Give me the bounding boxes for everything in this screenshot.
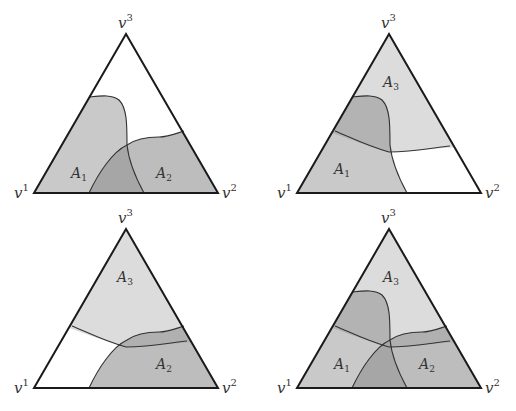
vertex-v3: v3 — [381, 12, 396, 32]
vertex-v3: v3 — [381, 207, 396, 227]
panel-bottom-left: A3 A2 v1 v2 v3 — [14, 207, 237, 397]
vertex-v1: v1 — [14, 377, 29, 397]
vertex-v2: v2 — [222, 182, 237, 202]
vertex-v2: v2 — [222, 377, 237, 397]
panel-top-right: A3 A1 v1 v2 v3 — [277, 12, 500, 202]
vertex-v1: v1 — [14, 182, 29, 202]
vertex-v3: v3 — [118, 207, 133, 227]
vertex-v2: v2 — [485, 377, 500, 397]
vertex-v1: v1 — [277, 182, 292, 202]
panel-top-left: A1 A2 v1 v2 v3 — [14, 12, 237, 202]
simplex-cover-diagram: A1 A2 v1 v2 v3 A3 A1 v1 v2 v3 A3 — [0, 0, 516, 411]
vertex-v1: v1 — [277, 377, 292, 397]
vertex-v3: v3 — [118, 12, 133, 32]
panel-bottom-right: A3 A1 A2 v1 v2 v3 — [277, 207, 500, 397]
vertex-v2: v2 — [485, 182, 500, 202]
